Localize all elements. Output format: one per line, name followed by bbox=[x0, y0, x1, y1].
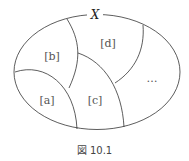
boundary-c bbox=[78, 53, 124, 127]
set-x-label: X bbox=[90, 8, 100, 22]
region-c-label: [c] bbox=[88, 94, 103, 107]
equivalence-class-diagram: X [a] [b] [c] [d] … bbox=[0, 0, 189, 161]
region-d-label: [d] bbox=[100, 37, 116, 50]
figure-caption: 図 10.1 bbox=[0, 142, 189, 157]
region-a-label: [a] bbox=[39, 94, 54, 107]
region-more-label: … bbox=[147, 72, 158, 85]
boundary-d bbox=[115, 25, 143, 83]
boundary-b bbox=[67, 19, 78, 88]
region-b-label: [b] bbox=[44, 50, 60, 63]
